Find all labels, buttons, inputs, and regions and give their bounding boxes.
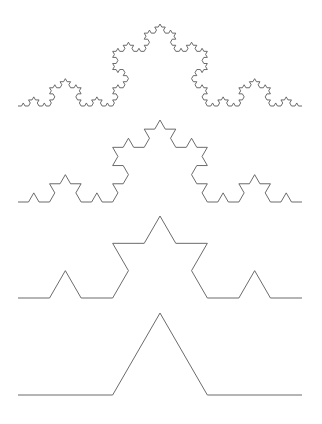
- figure-background: [0, 0, 322, 424]
- koch-figure: [0, 0, 322, 424]
- koch-curves-canvas: [0, 0, 322, 424]
